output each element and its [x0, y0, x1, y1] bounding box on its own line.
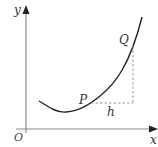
function-curve	[39, 17, 142, 112]
point-q-label: Q	[119, 33, 129, 47]
x-axis-label: x	[150, 133, 157, 147]
origin-label: O	[14, 131, 23, 144]
point-p-label: P	[78, 93, 88, 107]
y-axis-label: y	[13, 3, 21, 17]
y-axis-arrow-icon	[23, 5, 30, 14]
x-axis-arrow-icon	[149, 126, 158, 133]
function-diagram: y x O P Q h	[0, 0, 158, 147]
increment-h-label: h	[107, 105, 115, 119]
